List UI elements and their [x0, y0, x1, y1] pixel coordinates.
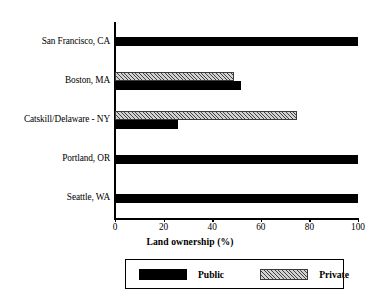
category-label: Seattle, WA	[67, 193, 110, 202]
legend-entry-private: Private	[260, 269, 349, 280]
bar-group: Boston, MA	[115, 61, 358, 100]
x-tick-label: 100	[351, 223, 365, 232]
chart-figure: San Francisco, CABoston, MACatskill/Dela…	[0, 0, 380, 301]
legend-swatch-public	[139, 269, 187, 280]
bar-public	[115, 81, 241, 90]
legend-entry-public: Public	[139, 269, 224, 280]
category-label: San Francisco, CA	[42, 37, 110, 46]
legend-label-public: Public	[198, 269, 224, 280]
x-axis-line	[114, 218, 359, 220]
legend-swatch-private	[260, 269, 308, 280]
bar-group: Portland, OR	[115, 140, 358, 179]
x-tick-label: 80	[305, 223, 314, 232]
x-tick-label: 40	[208, 223, 217, 232]
category-label: Catskill/Delaware - NY	[24, 115, 110, 124]
bar-private	[115, 111, 297, 120]
bar-group: Seattle, WA	[115, 179, 358, 218]
bar-public	[115, 155, 358, 164]
bar-public	[115, 37, 358, 46]
bar-private	[115, 72, 234, 81]
x-axis-label: Land ownership (%)	[0, 236, 380, 247]
chart-legend: Public Private	[125, 259, 344, 289]
bar-public	[115, 194, 358, 203]
x-tick-label: 20	[159, 223, 168, 232]
bar-group: San Francisco, CA	[115, 22, 358, 61]
x-tick-label: 0	[113, 223, 118, 232]
legend-label-private: Private	[319, 269, 349, 280]
category-label: Boston, MA	[65, 76, 110, 85]
category-label: Portland, OR	[62, 154, 110, 163]
bar-public	[115, 120, 178, 129]
bar-group: Catskill/Delaware - NY	[115, 100, 358, 139]
plot-area: San Francisco, CABoston, MACatskill/Dela…	[115, 22, 358, 218]
x-tick-label: 60	[256, 223, 265, 232]
